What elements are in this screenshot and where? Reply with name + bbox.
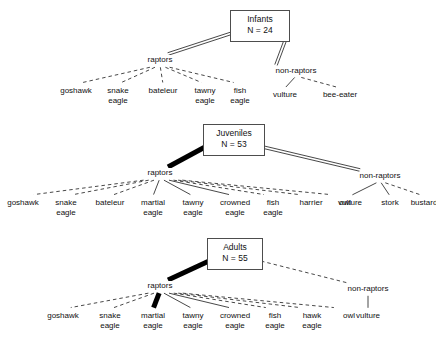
leaf-label: owl — [343, 311, 355, 321]
leaf-label: snake eagle — [55, 198, 76, 217]
leaf-label: vulture — [338, 198, 362, 208]
leaf-label: fish eagle — [265, 311, 285, 330]
root-link-infants-raptors — [168, 32, 233, 55]
leaf-label: snake eagle — [99, 311, 120, 330]
group-label-infants-raptors: raptors — [148, 55, 173, 65]
leaf-label: tawny eagle — [183, 198, 204, 217]
leaf-edge-infants-raptors-4 — [170, 67, 234, 82]
leaf-edge-juveniles-raptors-6 — [174, 180, 264, 194]
root-link-juveniles-non-raptors — [263, 146, 361, 171]
leaf-label: bee-eater — [323, 90, 357, 100]
root-title: Juveniles — [204, 128, 264, 139]
edge-double-stroke — [168, 32, 232, 53]
leaf-edge-adults-raptors-1 — [114, 293, 154, 307]
leaf-label: stork — [381, 198, 398, 208]
group-label-juveniles-raptors: raptors — [148, 168, 173, 178]
leaf-label: goshawk — [60, 86, 92, 96]
leaf-label: bateleur — [149, 86, 178, 96]
leaf-label: bateleur — [96, 198, 125, 208]
leaf-edge-infants-raptors-2 — [160, 67, 162, 82]
root-count: N = 53 — [204, 139, 264, 150]
group-label-infants-non-raptors: non-raptors — [276, 66, 317, 76]
root-link-adults-non-raptors — [261, 261, 348, 283]
leaf-label: crowned eagle — [220, 198, 250, 217]
leaf-edge-juveniles-raptors-0 — [34, 180, 144, 194]
root-box-infants: InfantsN = 24 — [230, 10, 290, 42]
leaf-label: hawk eagle — [302, 311, 322, 330]
leaf-edge-juveniles-non-raptors-0 — [352, 183, 376, 195]
leaf-edge-infants-non-raptors-1 — [301, 77, 336, 87]
leaf-edge-infants-non-raptors-0 — [286, 77, 295, 87]
leaf-edge-juveniles-non-raptors-2 — [385, 183, 420, 195]
leaf-label: goshawk — [47, 311, 79, 321]
leaf-label: martial eagle — [141, 198, 165, 217]
root-link-juveniles-raptors — [168, 147, 205, 167]
leaf-edge-infants-raptors-0 — [83, 67, 150, 82]
root-link-adults-raptors — [168, 261, 209, 280]
group-label-juveniles-non-raptors: non-raptors — [360, 171, 401, 181]
leaf-edge-adults-raptors-4 — [169, 293, 229, 307]
leaf-edge-infants-raptors-1 — [121, 67, 155, 82]
leaf-edge-juveniles-raptors-7 — [178, 180, 299, 194]
leaf-edge-adults-raptors-2 — [154, 293, 160, 307]
leaf-edge-adults-raptors-5 — [174, 293, 266, 307]
leaf-edge-juveniles-raptors-2 — [114, 180, 154, 194]
leaf-edge-adults-raptors-3 — [164, 293, 190, 307]
leaf-edge-juveniles-raptors-5 — [169, 180, 229, 194]
group-label-adults-raptors: raptors — [148, 281, 173, 291]
root-count: N = 55 — [208, 253, 262, 264]
leaf-edge-juveniles-non-raptors-1 — [381, 183, 389, 195]
leaf-edge-juveniles-raptors-8 — [182, 180, 330, 194]
leaf-edge-adults-raptors-6 — [178, 293, 300, 307]
leaf-edge-adults-raptors-0 — [71, 293, 149, 307]
root-title: Infants — [231, 14, 289, 25]
leaf-label: snake eagle — [107, 86, 128, 105]
root-box-juveniles: JuvenilesN = 53 — [203, 124, 265, 156]
leaf-label: vulture — [356, 311, 380, 321]
root-box-adults: AdultsN = 55 — [207, 238, 263, 270]
leaf-edge-juveniles-raptors-3 — [154, 180, 160, 194]
leaf-label: fish eagle — [230, 86, 250, 105]
leaf-edge-juveniles-raptors-1 — [74, 180, 149, 194]
edge-double-stroke — [263, 146, 360, 169]
leaf-label: harrier — [299, 198, 322, 208]
leaf-label: tawny eagle — [195, 86, 216, 105]
leaf-label: fish eagle — [263, 198, 283, 217]
root-title: Adults — [208, 242, 262, 253]
dendrogram-figure: InfantsN = 24raptorsgoshawksnake eagleba… — [0, 0, 436, 344]
leaf-label: tawny eagle — [183, 311, 204, 330]
leaf-label: goshawk — [7, 198, 39, 208]
leaf-edge-adults-raptors-7 — [183, 293, 334, 307]
leaf-label: vulture — [273, 90, 297, 100]
root-count: N = 24 — [231, 25, 289, 36]
edge-double-stroke — [263, 148, 360, 171]
leaf-label: bustard — [411, 198, 436, 208]
edge-double-stroke — [168, 34, 232, 55]
leaf-edge-infants-raptors-3 — [165, 67, 201, 82]
leaf-label: martial eagle — [141, 311, 165, 330]
leaf-edge-juveniles-raptors-4 — [164, 180, 190, 194]
group-label-adults-non-raptors: non-raptors — [348, 284, 389, 294]
leaf-label: crowned eagle — [220, 311, 250, 330]
